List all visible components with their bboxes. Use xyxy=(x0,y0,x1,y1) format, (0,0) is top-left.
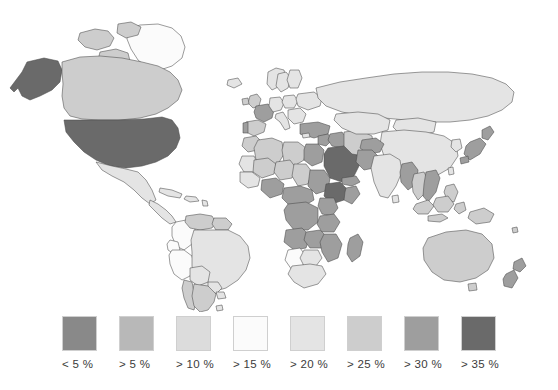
region-indonesia-sumatra xyxy=(413,200,434,214)
legend-swatch-1 xyxy=(119,316,154,351)
region-new-zealand-north xyxy=(513,258,526,272)
legend-swatch-7 xyxy=(461,316,496,351)
region-japan xyxy=(482,126,494,140)
region-lesser-antilles xyxy=(202,200,208,206)
world-map xyxy=(0,0,558,312)
region-germany xyxy=(269,97,284,112)
legend-label-5: > 25 % xyxy=(347,358,385,370)
legend: < 5 % > 5 % > 10 % > 15 % > 20 % > 25 % xyxy=(0,312,558,390)
legend-item-6[interactable]: > 30 % xyxy=(404,316,461,370)
region-balkans xyxy=(288,108,306,124)
region-yemen xyxy=(342,176,360,186)
legend-item-5[interactable]: > 25 % xyxy=(347,316,404,370)
region-united-states xyxy=(64,117,180,168)
region-falklands xyxy=(216,305,223,311)
region-alaska xyxy=(10,58,62,100)
legend-item-1[interactable]: > 5 % xyxy=(119,316,176,370)
region-canada-arctic-1 xyxy=(78,29,114,50)
legend-label-6: > 30 % xyxy=(404,358,442,370)
region-portugal xyxy=(243,122,248,133)
legend-label-7: > 35 % xyxy=(461,358,499,370)
region-spain xyxy=(246,120,266,136)
region-guyana xyxy=(212,218,232,230)
region-uruguay xyxy=(216,292,226,299)
region-papua-new-guinea xyxy=(468,208,494,224)
region-sri-lanka xyxy=(392,195,399,203)
legend-swatch-4 xyxy=(290,316,325,351)
region-poland xyxy=(282,95,298,108)
region-sulawesi xyxy=(454,202,466,214)
region-cyprus-crete xyxy=(302,133,310,138)
region-australia xyxy=(423,230,494,282)
region-iceland xyxy=(227,78,242,88)
region-ireland xyxy=(242,98,249,105)
legend-swatch-2 xyxy=(176,316,211,351)
region-hispaniola xyxy=(184,196,199,202)
region-tanzania xyxy=(317,214,340,232)
legend-label-4: > 20 % xyxy=(290,358,328,370)
legend-label-0: < 5 % xyxy=(62,358,93,370)
region-taiwan xyxy=(448,167,454,175)
region-nigeria xyxy=(261,178,284,198)
legend-swatch-6 xyxy=(404,316,439,351)
legend-label-2: > 10 % xyxy=(176,358,214,370)
region-india xyxy=(371,154,402,198)
legend-item-2[interactable]: > 10 % xyxy=(176,316,233,370)
region-somalia xyxy=(344,186,360,204)
region-finland xyxy=(287,70,302,88)
region-vietnam xyxy=(423,170,440,202)
region-fiji-islands xyxy=(512,227,518,233)
region-tasmania xyxy=(468,283,477,291)
legend-item-3[interactable]: > 15 % xyxy=(233,316,290,370)
legend-item-0[interactable]: < 5 % xyxy=(62,316,119,370)
region-venezuela xyxy=(185,214,216,230)
region-egypt xyxy=(304,144,324,166)
region-botswana xyxy=(300,250,322,266)
legend-label-1: > 5 % xyxy=(119,358,150,370)
legend-swatch-3 xyxy=(233,316,268,351)
region-new-zealand-south xyxy=(503,270,518,288)
region-south-africa xyxy=(288,264,326,288)
legend-swatch-5 xyxy=(347,316,382,351)
legend-item-4[interactable]: > 20 % xyxy=(290,316,347,370)
region-mexico xyxy=(96,162,156,204)
region-japan-kyushu xyxy=(460,156,469,164)
region-madagascar xyxy=(347,234,363,262)
legend-item-7[interactable]: > 35 % xyxy=(461,316,518,370)
region-indonesia-java xyxy=(428,214,448,222)
region-mozambique xyxy=(320,234,342,262)
legend-swatch-0 xyxy=(62,316,97,351)
region-kenya xyxy=(318,198,338,216)
region-dr-congo xyxy=(284,202,318,230)
map-area xyxy=(0,0,558,312)
legend-label-3: > 15 % xyxy=(233,358,271,370)
world-map-figure: < 5 % > 5 % > 10 % > 15 % > 20 % > 25 % xyxy=(0,0,558,390)
legend-items: < 5 % > 5 % > 10 % > 15 % > 20 % > 25 % xyxy=(62,316,518,370)
region-central-america xyxy=(149,200,176,224)
region-cuba xyxy=(159,188,182,198)
